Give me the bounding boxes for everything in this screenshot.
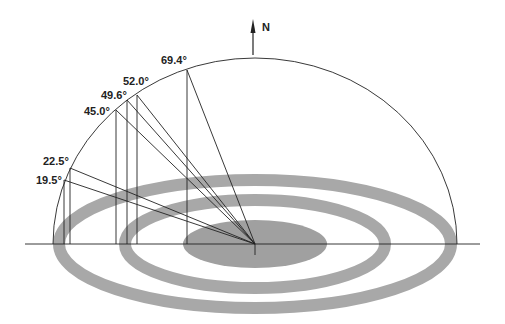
angle-label-52-0: 52.0° xyxy=(123,75,149,87)
angle-label-19-5: 19.5° xyxy=(36,174,62,186)
hemisphere-arc xyxy=(53,58,457,244)
angle-label-22-5: 22.5° xyxy=(43,155,69,167)
angle-label-49-6: 49.6° xyxy=(101,89,127,101)
north-arrow-icon xyxy=(251,19,256,55)
angle-label-69-4: 69.4° xyxy=(161,54,187,66)
sun-angle-diagram: N 69.4° 52.0° 49.6° 45.0° 22.5° 19.5° xyxy=(0,0,505,324)
north-label: N xyxy=(262,21,270,33)
angle-label-45-0: 45.0° xyxy=(84,105,110,117)
